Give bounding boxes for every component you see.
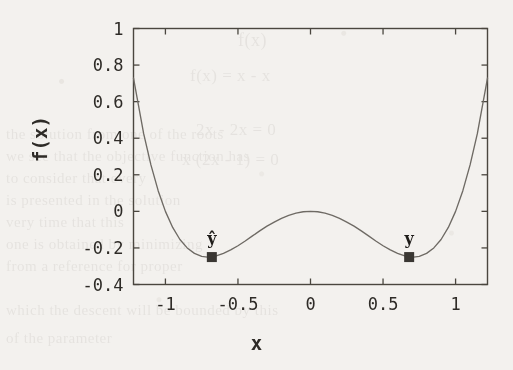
y-tick-label: -0.2 <box>6 238 124 258</box>
function-curve <box>134 78 488 257</box>
y-tick-label: 1 <box>6 19 124 39</box>
x-tick-label: -0.5 <box>198 294 278 314</box>
plot-frame <box>134 29 488 285</box>
y-tick-label: 0.4 <box>6 128 124 148</box>
y-tick-label: 0.2 <box>6 165 124 185</box>
axis-ticks <box>134 29 488 285</box>
data-point-marker <box>207 252 217 262</box>
data-point-label: y <box>389 229 429 248</box>
data-point-marker <box>404 252 414 262</box>
x-tick-label: 1 <box>416 294 496 314</box>
data-point-label: ŷ <box>192 229 232 248</box>
y-tick-label: -0.4 <box>6 275 124 295</box>
x-tick-label: 0.5 <box>343 294 423 314</box>
y-tick-label: 0.8 <box>6 55 124 75</box>
plot-figure: f(x) x 10.80.60.40.20-0.2-0.4 -1-0.500.5… <box>0 0 513 370</box>
x-tick-label: -1 <box>125 294 205 314</box>
y-tick-label: 0 <box>6 201 124 221</box>
data-point-markers <box>207 252 414 262</box>
y-tick-label: 0.6 <box>6 92 124 112</box>
x-axis-label: x <box>0 332 513 354</box>
x-tick-label: 0 <box>271 294 351 314</box>
